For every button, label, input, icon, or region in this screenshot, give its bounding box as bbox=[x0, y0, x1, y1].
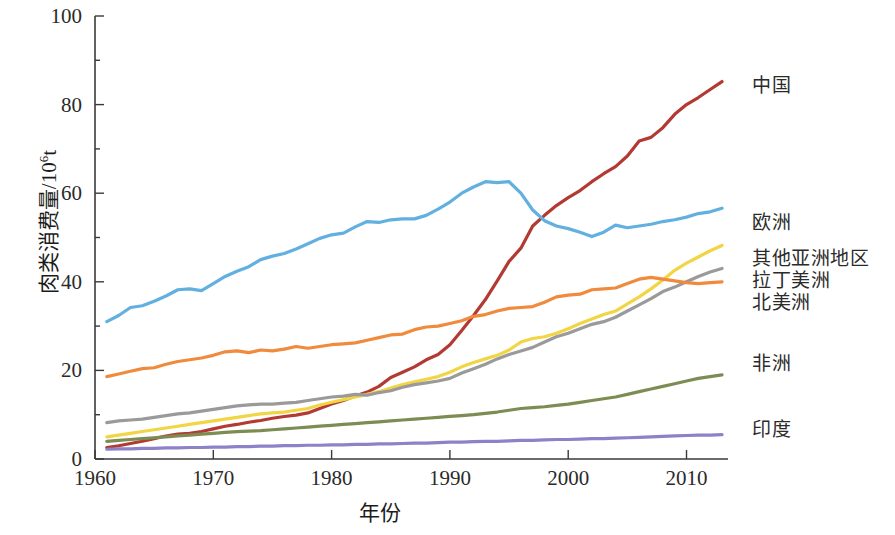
series-line-印度 bbox=[107, 435, 722, 450]
series-label-欧洲: 欧洲 bbox=[752, 207, 791, 234]
x-tick-label: 1970 bbox=[192, 466, 234, 490]
x-tick-label: 1960 bbox=[74, 466, 116, 490]
series-line-其他亚洲地区 bbox=[107, 245, 722, 436]
series-label-北美洲: 北美洲 bbox=[752, 287, 811, 314]
y-tick-label: 40 bbox=[61, 270, 82, 294]
y-tick-label: 100 bbox=[51, 4, 83, 28]
x-tick-label: 2000 bbox=[547, 466, 589, 490]
series-label-印度: 印度 bbox=[752, 414, 791, 441]
meat-consumption-line-chart: 020406080100196019701980199020002010 肉类消… bbox=[0, 0, 895, 535]
x-tick-label: 2010 bbox=[666, 466, 708, 490]
y-tick-label: 80 bbox=[61, 93, 82, 117]
series-label-中国: 中国 bbox=[752, 70, 791, 97]
y-tick-label: 60 bbox=[61, 181, 82, 205]
series-line-北美洲 bbox=[107, 277, 722, 376]
y-tick-label: 20 bbox=[61, 358, 82, 382]
x-tick-label: 1980 bbox=[311, 466, 353, 490]
series-label-非洲: 非洲 bbox=[752, 348, 791, 375]
x-tick-label: 1990 bbox=[429, 466, 471, 490]
y-axis-title: 肉类消费量/106t bbox=[6, 150, 40, 370]
x-axis-title: 年份 bbox=[0, 496, 760, 526]
